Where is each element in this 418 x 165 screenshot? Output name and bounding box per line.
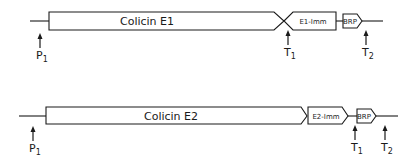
gene-label-colicin-e2: Colicin E2 <box>144 110 198 123</box>
site-label-t1: T1 <box>283 46 296 61</box>
site-label-t1: T1 <box>350 141 363 156</box>
gene-label-e1-imm: E1-Imm <box>299 18 326 26</box>
colicin-operon-diagram: Colicin E1 E1-Imm BRP P1 T1 T2 <box>0 0 418 165</box>
arrow-head-icon <box>364 30 369 36</box>
site-marker-p1-e1: P1 <box>36 33 48 64</box>
operon-e1: Colicin E1 E1-Imm BRP P1 T1 T2 <box>30 12 383 64</box>
site-marker-p1-e2: P1 <box>29 126 41 157</box>
arrow-head-icon <box>383 125 388 131</box>
arrow-head-icon <box>353 125 358 131</box>
site-label-t2: T2 <box>380 141 393 156</box>
gene-label-brp-e2: BRP <box>357 113 371 121</box>
site-label-t2: T2 <box>361 46 374 61</box>
site-marker-t2-e2: T2 <box>380 125 393 156</box>
operon-e2: Colicin E2 E2-Imm BRP P1 T1 T2 <box>19 107 398 157</box>
arrow-head-icon <box>286 30 291 36</box>
arrow-head-icon <box>31 126 36 132</box>
site-marker-t1-e2: T1 <box>350 125 363 156</box>
gene-label-e2-imm: E2-Imm <box>312 113 339 121</box>
site-marker-t1-e1: T1 <box>283 30 296 61</box>
site-label-p1: P1 <box>29 142 41 157</box>
arrow-head-icon <box>38 33 43 39</box>
gene-label-brp-e1: BRP <box>343 18 357 26</box>
gene-label-colicin-e1: Colicin E1 <box>120 15 174 28</box>
site-label-p1: P1 <box>36 49 48 64</box>
site-marker-t2-e1: T2 <box>361 30 374 61</box>
